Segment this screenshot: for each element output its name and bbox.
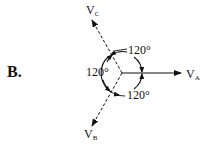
label-vc-name: V <box>86 3 95 17</box>
angle-arc-right-upper <box>134 57 142 72</box>
label-vc-subscript: C <box>95 10 100 18</box>
label-vb: VB <box>84 128 97 144</box>
angle-label-top: 120° <box>128 44 151 56</box>
angle-arc-right-lower <box>134 74 142 89</box>
leader-bottom <box>114 95 125 96</box>
angle-arc-top <box>111 52 127 55</box>
leader-top <box>114 49 127 51</box>
label-vb-subscript: B <box>93 134 98 142</box>
label-va: VA <box>186 68 200 84</box>
angle-label-bottom: 120° <box>127 89 150 101</box>
part-label: B. <box>7 64 22 80</box>
phasor-vb-line <box>92 73 122 126</box>
angle-arc-bottomleft-arrow <box>103 80 110 91</box>
label-vc: VC <box>86 4 99 20</box>
label-va-name: V <box>186 67 195 81</box>
label-vb-name: V <box>84 127 93 141</box>
label-va-subscript: A <box>195 74 200 82</box>
phasor-diagram: B. VA VC VB 120° 120° 120° <box>0 0 207 148</box>
angle-arc-topleft-arrow <box>107 55 112 62</box>
angle-label-left: 120° <box>86 66 109 78</box>
